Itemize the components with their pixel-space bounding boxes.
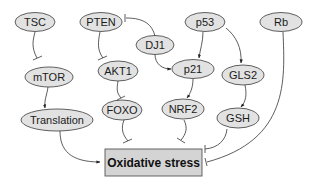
edge-gsh-oxidative xyxy=(205,129,227,149)
edge-gls2-gsh xyxy=(241,85,246,107)
node-p53: p53 xyxy=(185,13,225,32)
inhibit-bar-icon xyxy=(33,56,42,60)
node-label: GSH xyxy=(226,112,250,124)
node-rb: Rb xyxy=(260,13,302,32)
edge-p53-p21 xyxy=(199,32,203,58)
node-tsc: TSC xyxy=(15,13,55,32)
node-label: mTOR xyxy=(33,71,65,83)
edge-nrf2-oxidative xyxy=(181,120,186,140)
node-label: NRF2 xyxy=(169,103,198,115)
inhibit-bar-icon xyxy=(177,138,185,143)
edge-mtor-translation xyxy=(45,87,48,108)
edge-akt1-foxo xyxy=(117,81,121,98)
node-label: DJ1 xyxy=(145,39,165,51)
node-label: GLS2 xyxy=(229,69,257,81)
oxidative-stress-label: Oxidative stress xyxy=(107,156,200,170)
node-nrf2: NRF2 xyxy=(162,99,204,119)
node-label: p21 xyxy=(184,63,202,75)
node-label: PTEN xyxy=(86,16,115,28)
node-foxo: FOXO xyxy=(102,100,142,120)
node-gsh: GSH xyxy=(217,108,259,128)
node-label: FOXO xyxy=(106,104,138,116)
node-gls2: GLS2 xyxy=(222,65,264,85)
edge-foxo-oxidative xyxy=(122,120,128,141)
edge-tsc-mtor xyxy=(33,32,37,58)
inhibit-bar-icon xyxy=(117,96,125,100)
node-akt1: AKT1 xyxy=(98,61,138,81)
node-mtor: mTOR xyxy=(25,67,73,87)
node-translation: Translation xyxy=(21,109,93,131)
edge-dj1-p21 xyxy=(155,54,171,69)
node-label: AKT1 xyxy=(104,65,132,77)
node-label: Rb xyxy=(274,16,288,28)
edge-p21-nrf2 xyxy=(187,79,193,98)
inhibit-bar-icon xyxy=(123,139,132,143)
edge-pten-akt1 xyxy=(98,32,103,58)
node-label: TSC xyxy=(24,16,46,28)
node-label: Translation xyxy=(30,114,84,126)
edge-dj1-pten xyxy=(126,18,155,36)
node-p21: p21 xyxy=(172,60,214,79)
oxidative-stress-box: Oxidative stress xyxy=(105,149,202,176)
pathway-diagram: TSC PTEN p53 Rb DJ1 mTOR AKT1 p21 GLS2 T… xyxy=(0,0,314,185)
node-label: p53 xyxy=(196,16,214,28)
edge-p53-gls2 xyxy=(226,28,241,63)
inhibit-bar-icon xyxy=(205,158,207,166)
node-dj1: DJ1 xyxy=(136,36,174,55)
node-pten: PTEN xyxy=(80,13,122,32)
edge-translation-oxidative xyxy=(60,131,100,162)
